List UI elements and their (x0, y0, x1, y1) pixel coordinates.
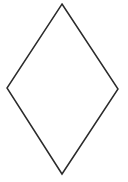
rhombus-diagram (0, 0, 128, 182)
diagram-canvas (0, 0, 128, 182)
rhombus-shape (7, 4, 118, 174)
